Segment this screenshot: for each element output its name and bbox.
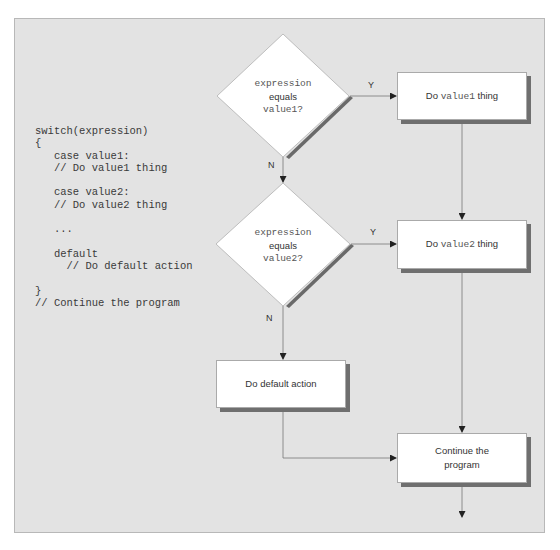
decision-1-line1: expression <box>228 77 338 90</box>
box2-prefix: Do <box>426 238 441 249</box>
process-box-continue: Continue the program <box>397 433 527 483</box>
box-continue-line1: Continue the <box>435 444 489 458</box>
process-box-value2: Do value2 thing <box>397 220 527 269</box>
decision-2-line3: value2? <box>228 252 338 265</box>
label-yes-2: Y <box>370 227 376 237</box>
box-default-label: Do default action <box>245 377 316 391</box>
process-box-value1: Do value1 thing <box>397 72 527 120</box>
box2-suffix: thing <box>475 238 498 249</box>
arrow-default-continue <box>283 408 396 458</box>
decision-2-line1: expression <box>228 226 338 239</box>
box1-prefix: Do <box>426 90 441 101</box>
box2-code: value2 <box>441 239 475 250</box>
box1-suffix: thing <box>475 90 498 101</box>
label-yes-1: Y <box>368 80 374 90</box>
box-continue-line2: program <box>444 458 479 472</box>
decision-1-text: expression equals value1? <box>228 77 338 116</box>
box1-code: value1 <box>441 91 475 102</box>
decision-1-line3: value1? <box>228 103 338 116</box>
decision-2-text: expression equals value2? <box>228 226 338 265</box>
label-no-1: N <box>268 160 275 170</box>
process-box-default: Do default action <box>216 360 346 408</box>
label-no-2: N <box>266 313 273 323</box>
decision-2-line2: equals <box>269 240 297 251</box>
decision-1-line2: equals <box>269 91 297 102</box>
